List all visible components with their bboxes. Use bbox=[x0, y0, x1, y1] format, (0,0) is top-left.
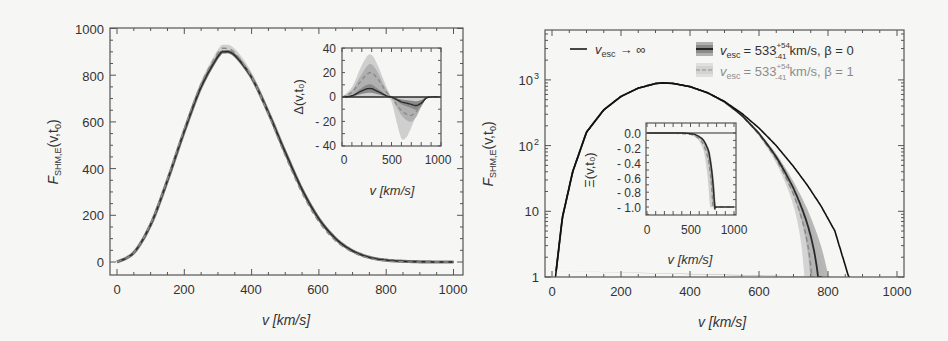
x-tick: 200 bbox=[173, 282, 195, 297]
right-x-axis-label: v [km/s] bbox=[698, 314, 747, 330]
right-inset-y-label: Ξ(v,t₀) bbox=[582, 152, 597, 187]
legend-label-beta1: vesc= 533+54-41km/s, β = 1 bbox=[720, 62, 854, 82]
right-inset-y-ticks: 0.0 - 0.2 - 0.4 - 0.6 - 0.8 - 1.0 bbox=[617, 127, 641, 215]
x-tick: 800 bbox=[375, 282, 397, 297]
y-label-sub: SHM,E bbox=[53, 148, 63, 177]
right-inset-x-ticks: 0 500 1000 bbox=[644, 223, 748, 237]
inset-y-tick: 40 bbox=[323, 42, 337, 56]
right-inset-x-label: v [km/s] bbox=[668, 252, 713, 267]
y-tick: 400 bbox=[82, 162, 104, 177]
legend-label-inf: vesc→ ∞ bbox=[595, 42, 645, 59]
y-label-args: (v,t bbox=[45, 129, 61, 148]
y-tick: 10 bbox=[519, 139, 533, 154]
y-tick-base: 10 bbox=[525, 204, 539, 219]
legend-item-inf: vesc→ ∞ bbox=[570, 42, 645, 59]
x-tick: 1000 bbox=[883, 284, 912, 299]
y-tick: 10 bbox=[519, 73, 533, 88]
left-y-axis-label: FSHM,E(v,t0) bbox=[45, 119, 63, 184]
inset-y-tick: - 0.8 bbox=[617, 186, 641, 200]
inset-y-tick: 0.0 bbox=[624, 127, 641, 141]
right-y-axis-label: FSHM,E(v,t0) bbox=[480, 121, 498, 186]
left-inset: 40 20 0 - 20 - 40 0 500 1000 v [km/s] Δ(… bbox=[291, 42, 452, 198]
x-tick: 0 bbox=[113, 282, 120, 297]
y-label-close: ) bbox=[45, 119, 61, 124]
legend-sub: esc bbox=[602, 49, 617, 59]
legend-item-beta0: vesc= 533+54-41km/s, β = 0 bbox=[696, 41, 854, 61]
legend-eq: = 533 bbox=[744, 64, 777, 79]
inset-x-tick: 500 bbox=[382, 153, 402, 167]
y-tick: 1 bbox=[532, 270, 539, 285]
legend-sup: +54 bbox=[776, 41, 790, 50]
legend-item-beta1: vesc= 533+54-41km/s, β = 1 bbox=[696, 62, 854, 82]
x-tick: 400 bbox=[679, 284, 701, 299]
x-tick: 200 bbox=[610, 284, 632, 299]
inset-y-tick: - 0.6 bbox=[617, 172, 641, 186]
left-inset-y-ticks: 40 20 0 - 20 - 40 bbox=[315, 42, 336, 153]
y-tick: 600 bbox=[82, 115, 104, 130]
legend-rest: → ∞ bbox=[620, 42, 646, 57]
y-tick: 10 bbox=[525, 204, 539, 219]
y-label-args: (v,t bbox=[480, 131, 496, 150]
y-tick: 1000 bbox=[75, 22, 104, 37]
legend-rest: km/s, β = 0 bbox=[790, 43, 854, 58]
left-x-axis-label: v [km/s] bbox=[262, 312, 311, 328]
inset-y-tick: - 0.4 bbox=[617, 157, 641, 171]
x-tick: 0 bbox=[548, 284, 555, 299]
left-inset-y-label: Δ(v,t₀) bbox=[291, 79, 306, 115]
left-inset-x-label: v [km/s] bbox=[370, 183, 415, 198]
x-tick: 600 bbox=[307, 282, 329, 297]
legend-rest: km/s, β = 1 bbox=[790, 64, 854, 79]
left-inset-x-ticks: 0 500 1000 bbox=[341, 153, 452, 167]
y-tick: 200 bbox=[82, 208, 104, 223]
left-x-tick-labels: 0 200 400 600 800 1000 bbox=[113, 282, 467, 297]
inset-x-tick: 0 bbox=[644, 223, 651, 237]
legend: vesc→ ∞ vesc= 533+54-41km/s, β = 0 vesc=… bbox=[570, 41, 854, 82]
y-tick-base: 10 bbox=[519, 73, 533, 88]
x-label-text: v [km/s] bbox=[262, 312, 311, 328]
legend-sub: esc bbox=[727, 71, 742, 81]
y-tick: 800 bbox=[82, 69, 104, 84]
y-tick-base: 10 bbox=[519, 139, 533, 154]
inset-y-tick: - 0.2 bbox=[617, 142, 641, 156]
left-panel: 0 200 400 600 800 1000 0 200 400 600 800… bbox=[45, 22, 467, 328]
inset-x-tick: 500 bbox=[681, 223, 701, 237]
inset-x-tick: 1000 bbox=[425, 153, 452, 167]
x-tick: 400 bbox=[240, 282, 262, 297]
legend-eq: = 533 bbox=[744, 43, 777, 58]
y-label-sub: SHM,E bbox=[488, 150, 498, 179]
legend-sup: +54 bbox=[776, 62, 790, 71]
y-tick: 0 bbox=[97, 255, 104, 270]
right-panel: 0 200 400 600 800 1000 1 10 10 2 10 3 v … bbox=[480, 30, 911, 330]
left-y-tick-labels: 0 200 400 600 800 1000 bbox=[75, 22, 104, 270]
right-inset: 0.0 - 0.2 - 0.4 - 0.6 - 0.8 - 1.0 0 500 … bbox=[582, 123, 748, 267]
y-tick-base: 1 bbox=[532, 270, 539, 285]
legend-lo: -41 bbox=[775, 73, 787, 82]
legend-lo: -41 bbox=[775, 52, 787, 61]
inset-y-tick: - 1.0 bbox=[617, 201, 641, 215]
y-tick-exp: 2 bbox=[534, 137, 539, 147]
inset-x-tick: 1000 bbox=[721, 223, 748, 237]
right-y-tick-labels: 1 10 10 2 10 3 bbox=[519, 71, 539, 285]
y-tick-exp: 3 bbox=[534, 71, 539, 81]
legend-sub: esc bbox=[727, 50, 742, 60]
right-inset-bg bbox=[646, 123, 736, 215]
inset-y-tick: - 40 bbox=[315, 139, 336, 153]
y-label-close: ) bbox=[480, 121, 496, 126]
inset-y-tick: 0 bbox=[329, 90, 336, 104]
legend-label-beta0: vesc= 533+54-41km/s, β = 0 bbox=[720, 41, 854, 61]
x-tick: 1000 bbox=[439, 282, 468, 297]
x-tick: 800 bbox=[817, 284, 839, 299]
inset-x-tick: 0 bbox=[341, 153, 348, 167]
figure: 0 200 400 600 800 1000 0 200 400 600 800… bbox=[0, 0, 948, 341]
inset-y-tick: 20 bbox=[323, 66, 337, 80]
inset-y-tick: - 20 bbox=[315, 115, 336, 129]
x-tick: 600 bbox=[748, 284, 770, 299]
right-x-tick-labels: 0 200 400 600 800 1000 bbox=[548, 284, 911, 299]
